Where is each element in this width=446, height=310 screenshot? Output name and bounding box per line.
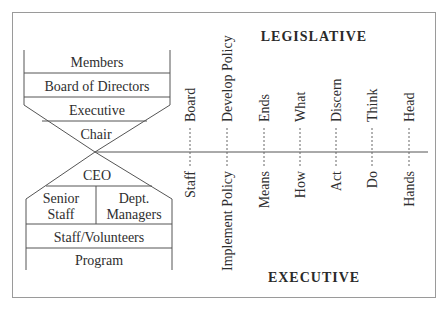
level-senior-staff-line2: Staff xyxy=(48,207,75,222)
legislative-header: LEGISLATIVE xyxy=(261,29,367,44)
level-dept-managers-line1: Dept. xyxy=(119,191,150,206)
executive-term: Staff xyxy=(183,171,198,198)
executive-term: Means xyxy=(257,171,272,208)
level-ceo: CEO xyxy=(83,168,111,183)
governance-diagram: Members Board of Directors Executive Cha… xyxy=(0,0,446,310)
executive-term: Do xyxy=(365,171,380,188)
legislative-term: Head xyxy=(402,92,417,122)
legislative-term: Think xyxy=(365,89,380,122)
executive-term: Implement Policy xyxy=(220,171,235,271)
executive-header: EXECUTIVE xyxy=(268,270,360,285)
legislative-term: What xyxy=(293,92,308,122)
pair-column: DiscernAct xyxy=(329,78,344,191)
level-executive: Executive xyxy=(69,103,125,118)
legislative-term: Board xyxy=(183,88,198,122)
level-program: Program xyxy=(75,253,123,268)
level-board: Board of Directors xyxy=(45,79,150,94)
level-dept-managers-line2: Managers xyxy=(106,207,161,222)
pair-column: HeadHands xyxy=(402,92,417,206)
level-staff-volunteers: Staff/Volunteers xyxy=(54,230,144,245)
pair-column: WhatHow xyxy=(293,92,308,199)
executive-term: Hands xyxy=(402,171,417,207)
executive-term: Act xyxy=(329,171,344,191)
legislative-term: Develop Policy xyxy=(220,35,235,122)
role-pairs: BoardStaffDevelop PolicyImplement Policy… xyxy=(183,35,417,271)
executive-term: How xyxy=(293,170,308,198)
level-members: Members xyxy=(71,55,124,70)
pair-column: EndsMeans xyxy=(257,94,272,208)
pair-column: ThinkDo xyxy=(365,89,380,189)
pair-column: BoardStaff xyxy=(183,88,198,198)
level-senior-staff-line1: Senior xyxy=(43,191,80,206)
top-block: Members Board of Directors Executive Cha… xyxy=(24,50,170,152)
bottom-block: CEO Senior Staff Dept. Managers Staff/Vo… xyxy=(26,152,172,270)
level-chair: Chair xyxy=(80,127,111,142)
pair-column: Develop PolicyImplement Policy xyxy=(220,35,235,271)
legislative-term: Discern xyxy=(329,78,344,122)
legislative-term: Ends xyxy=(257,94,272,122)
